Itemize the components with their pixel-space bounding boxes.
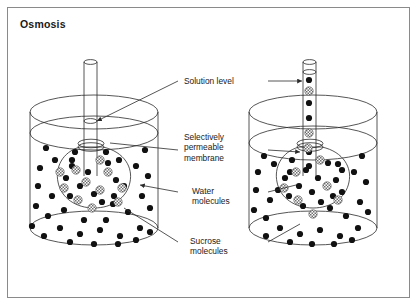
membrane-label-line-1: Selectively bbox=[184, 132, 224, 142]
membrane-label-line-2: permeable bbox=[184, 142, 224, 152]
leader-water-left bbox=[140, 185, 178, 192]
sucrose-label-line-1: Sucrose bbox=[190, 236, 228, 246]
leader-membrane-right bbox=[268, 150, 300, 152]
label-selectively-permeable-membrane: Selectively permeable membrane bbox=[184, 132, 224, 163]
water-label-line-2: molecules bbox=[192, 196, 230, 206]
figure-canvas: Osmosis bbox=[0, 0, 418, 306]
membrane-label-line-3: membrane bbox=[184, 153, 224, 163]
leader-sucrose-left bbox=[124, 208, 178, 242]
label-solution-level: Solution level bbox=[184, 76, 234, 86]
left-sucrose-molecules bbox=[56, 156, 126, 212]
leader-sucrose-right bbox=[268, 224, 300, 242]
left-sac-contents bbox=[56, 156, 126, 212]
right-tube-contents bbox=[305, 77, 313, 169]
leader-solution-left bbox=[97, 81, 178, 121]
right-sac-contents bbox=[275, 144, 345, 218]
water-label-line-1: Water bbox=[192, 186, 230, 196]
label-water-molecules: Water molecules bbox=[192, 186, 230, 207]
sucrose-label-line-2: molecules bbox=[190, 246, 228, 256]
left-water-molecules bbox=[29, 145, 153, 247]
label-sucrose-molecules: Sucrose molecules bbox=[190, 236, 228, 257]
